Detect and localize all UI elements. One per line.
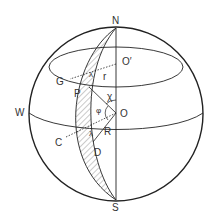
angle-phi-arc: [105, 106, 108, 120]
label-r-large: R: [104, 126, 111, 137]
label-p: P: [74, 88, 81, 99]
label-south: S: [112, 202, 119, 213]
label-lambda-upper: λ: [89, 70, 93, 79]
sphere-diagram: N S W O O′ G P C D r R χ φ λ λ: [0, 0, 214, 216]
label-west: W: [15, 107, 25, 118]
label-small-center: O′: [122, 56, 132, 67]
label-c: C: [55, 137, 62, 148]
label-g: G: [56, 76, 64, 87]
label-phi: φ: [96, 106, 101, 115]
label-chi: χ: [107, 91, 113, 102]
label-d: D: [94, 147, 101, 158]
label-center: O: [120, 108, 128, 119]
label-lambda-lower: λ: [89, 129, 93, 138]
label-r-small: r: [103, 71, 107, 82]
label-north: N: [112, 15, 119, 26]
